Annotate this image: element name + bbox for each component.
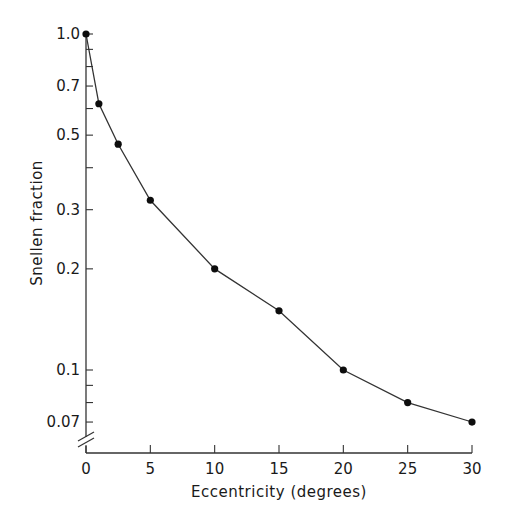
y-tick-label: 0.2 (56, 260, 80, 278)
x-tick-label: 15 (269, 460, 288, 478)
axes (78, 34, 472, 453)
data-point (147, 197, 154, 204)
x-tick-label: 5 (146, 460, 156, 478)
y-tick-label: 0.1 (56, 361, 80, 379)
data-point (340, 366, 347, 373)
x-tick-label: 0 (81, 460, 91, 478)
data-point (468, 418, 475, 425)
x-tick-label: 30 (462, 460, 481, 478)
x-axis-title: Eccentricity (degrees) (191, 483, 367, 501)
data-point (95, 100, 102, 107)
data-point (404, 399, 411, 406)
y-tick-label: 1.0 (56, 25, 80, 43)
data-point (275, 307, 282, 314)
x-tick-label: 25 (398, 460, 417, 478)
x-tick-label: 10 (205, 460, 224, 478)
chart-canvas: 1.00.70.50.30.20.10.07 051015202530 Ecce… (0, 0, 514, 528)
data-point (115, 141, 122, 148)
y-axis-title: Snellen fraction (28, 160, 46, 286)
data-series (82, 30, 475, 425)
y-tick-label: 0.07 (47, 413, 80, 431)
data-point (82, 30, 89, 37)
y-tick-label: 0.5 (56, 126, 80, 144)
data-line (86, 34, 472, 422)
y-tick-label: 0.3 (56, 201, 80, 219)
y-tick-label: 0.7 (56, 77, 80, 95)
x-axis-ticks: 051015202530 (81, 445, 481, 478)
data-point (211, 265, 218, 272)
x-tick-label: 20 (334, 460, 353, 478)
